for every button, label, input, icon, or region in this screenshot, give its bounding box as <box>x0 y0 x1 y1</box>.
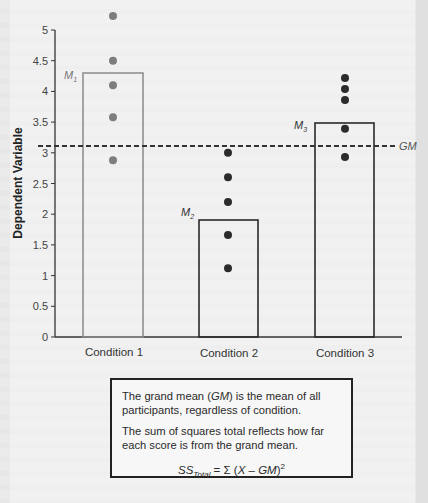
data-point <box>109 12 117 20</box>
y-tick-label: 1 <box>42 270 48 282</box>
y-tick-label: 4.5 <box>33 55 48 67</box>
category-label-2: Condition 2 <box>200 347 258 359</box>
grand-mean-definition: The grand mean (GM) is the mean of all p… <box>122 389 343 417</box>
data-point <box>341 153 349 161</box>
data-point <box>224 173 232 181</box>
mean-label-m3: M3 <box>294 119 307 133</box>
data-point <box>341 74 349 82</box>
category-label-1: Condition 1 <box>85 346 143 358</box>
mean-label-m1: M1 <box>64 69 77 83</box>
y-axis-label: Dependent Variable <box>11 127 25 239</box>
data-point <box>224 264 232 272</box>
y-tick-label: 1.5 <box>33 239 48 251</box>
y-tick-label: 2 <box>42 208 48 220</box>
data-point <box>341 125 349 133</box>
data-point <box>224 149 232 157</box>
category-label-3: Condition 3 <box>316 347 374 359</box>
y-tick-label: 3 <box>42 147 48 159</box>
data-point <box>341 96 349 104</box>
data-point <box>224 231 232 239</box>
y-tick-label: 2.5 <box>33 178 48 190</box>
data-point <box>224 198 232 206</box>
data-point <box>109 113 117 121</box>
data-points <box>109 12 349 272</box>
sum-of-squares-definition: The sum of squares total reflects how fa… <box>122 424 343 452</box>
y-ticks: 00.511.522.533.544.55 <box>33 24 55 343</box>
y-tick-label: 3.5 <box>33 116 48 128</box>
data-point <box>109 156 117 164</box>
data-point <box>341 85 349 93</box>
grand-mean-label: GM <box>399 140 418 152</box>
y-tick-label: 5 <box>42 24 48 36</box>
ss-total-formula: SSTotal = Σ (X – GM)2 <box>112 460 351 482</box>
mean-label-m2: M2 <box>181 206 194 220</box>
data-point <box>109 81 117 89</box>
y-tick-label: 0 <box>42 331 48 343</box>
bar-condition-1 <box>83 73 143 337</box>
explanation-box: The grand mean (GM) is the mean of all p… <box>110 378 353 478</box>
y-tick-label: 0.5 <box>33 300 48 312</box>
bar-chart: 00.511.522.533.544.55 Dependent Variable… <box>0 0 428 380</box>
y-tick-label: 4 <box>42 85 48 97</box>
data-point <box>109 57 117 65</box>
